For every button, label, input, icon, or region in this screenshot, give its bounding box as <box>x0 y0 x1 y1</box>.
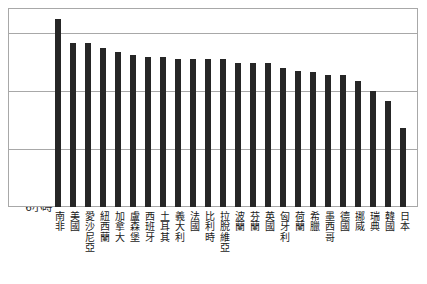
bar <box>295 71 301 207</box>
x-axis-label-11: 拉脫維亞 <box>216 211 228 253</box>
bar <box>400 128 406 207</box>
bar <box>340 75 346 207</box>
bar <box>250 63 256 207</box>
bar <box>355 81 361 207</box>
x-axis-label-19: 德國 <box>336 211 348 232</box>
x-axis-label-10: 比利時 <box>201 211 213 242</box>
x-axis-label-18: 墨西哥 <box>321 211 333 242</box>
bar <box>70 43 76 207</box>
x-axis-label-22: 韓國 <box>381 211 393 232</box>
x-axis-label-9: 法國 <box>186 211 198 232</box>
x-axis-label-17: 希臘 <box>306 211 318 232</box>
bar <box>205 59 211 207</box>
bar <box>145 57 151 207</box>
bar <box>265 63 271 207</box>
x-axis-label-21: 瑞典 <box>366 211 378 232</box>
x-axis-label-4: 加拿大 <box>111 211 123 242</box>
x-axis-label-12: 波蘭 <box>231 211 243 232</box>
x-axis-label-5: 盧森堡 <box>126 211 138 242</box>
plot-area <box>8 8 418 207</box>
bar <box>280 68 286 207</box>
bar <box>130 55 136 207</box>
bar <box>160 57 166 207</box>
sleep-duration-bar-chart: 9小時8小時7小時6小時 南非美國愛沙尼亞紐西蘭加拿大盧森堡西班牙土耳其義大利法… <box>0 0 427 284</box>
bar <box>385 101 391 207</box>
x-axis-label-0: 南非 <box>51 211 63 232</box>
bar <box>190 59 196 207</box>
bar <box>55 19 61 208</box>
x-axis-label-15: 匈牙利 <box>276 211 288 242</box>
x-axis-label-13: 芬蘭 <box>246 211 258 232</box>
bar <box>310 72 316 207</box>
x-axis-label-20: 挪威 <box>351 211 363 232</box>
x-axis-label-7: 土耳其 <box>156 211 168 242</box>
x-axis-label-2: 愛沙尼亞 <box>81 211 93 253</box>
bar <box>235 63 241 207</box>
x-axis-label-1: 美國 <box>66 211 78 232</box>
x-axis-label-8: 義大利 <box>171 211 183 242</box>
x-axis-label-14: 英國 <box>261 211 273 232</box>
bar <box>325 75 331 207</box>
bar <box>100 48 106 208</box>
bar <box>175 59 181 207</box>
bar <box>220 59 226 207</box>
x-axis-label-23: 日本 <box>396 211 408 232</box>
x-axis-label-3: 紐西蘭 <box>96 211 108 242</box>
x-axis-label-16: 荷蘭 <box>291 211 303 232</box>
bar <box>85 43 91 207</box>
bar <box>115 52 121 207</box>
x-axis-category-labels: 南非美國愛沙尼亞紐西蘭加拿大盧森堡西班牙土耳其義大利法國比利時拉脫維亞波蘭芬蘭英… <box>0 211 427 284</box>
bar <box>370 91 376 207</box>
x-axis-label-6: 西班牙 <box>141 211 153 242</box>
bars-group <box>9 9 417 206</box>
